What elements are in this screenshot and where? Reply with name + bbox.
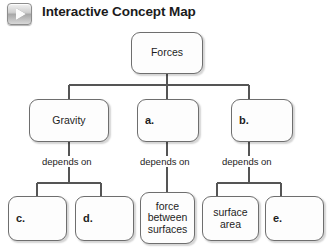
node-label: b. (239, 115, 249, 127)
node-b[interactable]: b. (231, 99, 293, 142)
node-label: Gravity (52, 115, 85, 127)
node-label: d. (83, 213, 93, 225)
node-label: Forces (151, 47, 183, 59)
node-gravity[interactable]: Gravity (29, 99, 109, 142)
node-forces[interactable]: Forces (131, 32, 203, 74)
node-label: a. (145, 115, 154, 127)
node-label: force between surfaces (141, 201, 194, 236)
node-label: surface area (203, 207, 258, 230)
edge-label-b: depends on (220, 156, 274, 167)
node-e[interactable]: e. (265, 196, 324, 241)
edge-label-gravity: depends on (40, 156, 94, 167)
node-d[interactable]: d. (75, 196, 134, 241)
edge-label-a: depends on (138, 156, 192, 167)
node-label: c. (16, 213, 25, 225)
concept-map: Forces Gravity a. b. depends on depends … (0, 0, 334, 252)
node-c[interactable]: c. (8, 196, 67, 241)
node-surface-area[interactable]: surface area (202, 196, 259, 241)
node-a[interactable]: a. (137, 99, 199, 142)
node-label: e. (273, 213, 282, 225)
node-force-between-surfaces[interactable]: force between surfaces (140, 192, 195, 244)
